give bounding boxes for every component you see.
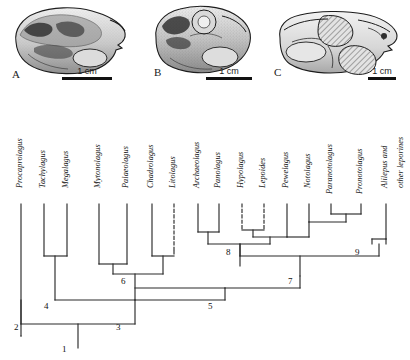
panel-letter-c: C	[274, 66, 281, 78]
tree-branches	[0, 104, 410, 360]
panel-letter-b: B	[154, 66, 161, 78]
cladogram: Procaprolagus Tachylagus Megalagus Myton…	[0, 104, 410, 360]
scale-label-b: 1 cm	[206, 66, 252, 76]
scale-rule-c	[368, 77, 396, 80]
scale-bar-c: 1 cm	[368, 66, 396, 80]
scale-bar-b: 1 cm	[206, 66, 252, 80]
specimen-panel-c: C 1 cm	[272, 2, 402, 80]
specimen-photo-plate: A 1 cm	[0, 0, 410, 108]
specimen-panel-b: B 1 cm	[148, 2, 258, 80]
scale-bar-a: 1 cm	[62, 66, 112, 80]
scale-label-a: 1 cm	[62, 66, 112, 76]
panel-letter-a: A	[12, 68, 20, 80]
scale-rule-a	[62, 77, 112, 80]
specimen-panel-a: A 1 cm	[10, 2, 130, 80]
scale-rule-b	[206, 77, 252, 80]
scale-label-c: 1 cm	[368, 66, 396, 76]
